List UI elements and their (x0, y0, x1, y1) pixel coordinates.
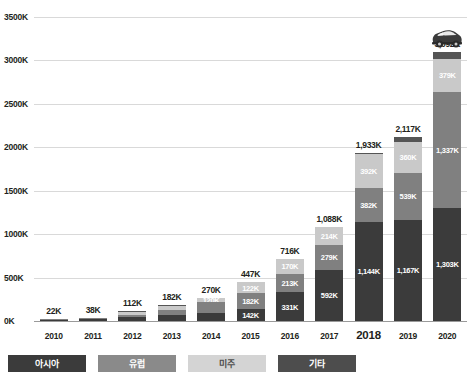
car-icon (430, 28, 464, 50)
bar-total-label: 716K (264, 246, 316, 256)
y-axis-tick-label: 2000K (4, 142, 28, 152)
bar-segment[interactable]: 392K (355, 154, 383, 188)
bar-group[interactable]: 170K213K331K716K (276, 0, 304, 330)
x-axis-tick-label: 2013 (152, 331, 192, 341)
bar-segment-value-label: 182K (237, 296, 265, 305)
bar-segment[interactable]: 182K (237, 293, 265, 309)
bar-segment[interactable]: 360K (394, 142, 422, 173)
bar-total-label: 447K (225, 269, 277, 279)
bar-segment-value-label: 213K (276, 279, 304, 288)
bar-segment-value-label: 379K (433, 71, 461, 80)
bar-stack: 38K (79, 318, 107, 321)
bar-stack: 182K (158, 305, 186, 321)
x-axis-tick-label: 2020 (427, 331, 467, 341)
x-axis-tick-label: 2010 (34, 331, 74, 341)
bar-segment[interactable]: 592K (315, 270, 343, 321)
y-axis-tick-label: 3500K (4, 12, 28, 22)
x-axis-tick-label: 2012 (112, 331, 152, 341)
chart-legend: 아시아유럽미주기타 (8, 355, 356, 373)
x-axis-tick-label: 2017 (309, 331, 349, 341)
bar-stack: 170K213K331K716K (276, 259, 304, 321)
bar-group[interactable]: 120K270K (197, 0, 225, 330)
bar-segment[interactable]: 122K (237, 282, 265, 293)
x-axis-tick-label: 2015 (231, 331, 271, 341)
bar-series-layer: 22K38K112K182K120K270K122K182K142K447K17… (34, 0, 467, 330)
bar-segment[interactable]: 1,144K (355, 222, 383, 321)
bar-group[interactable]: 392K382K1,144K1,933K (355, 0, 383, 330)
bar-stack: 379K1,337K1,303K3,092K (433, 52, 461, 321)
legend-item-2[interactable]: 유럽 (98, 355, 176, 372)
y-axis-tick-label: 0K (4, 316, 14, 326)
bar-segment-value-label: 392K (355, 167, 383, 176)
bar-total-label: 1,088K (303, 214, 355, 224)
x-axis-tick-label: 2011 (73, 331, 113, 341)
bar-stack: 360K539K1,167K2,117K (394, 137, 422, 321)
bar-segment[interactable]: 382K (355, 188, 383, 221)
bar-segment[interactable] (79, 319, 107, 321)
bar-segment[interactable]: 1,337K (433, 92, 461, 208)
bar-segment[interactable] (158, 315, 186, 321)
bar-group[interactable]: 360K539K1,167K2,117K (394, 0, 422, 330)
x-axis-tick-label: 2014 (191, 331, 231, 341)
bar-total-label: 270K (185, 285, 237, 295)
bar-segment-value-label: 279K (315, 253, 343, 262)
bar-segment-value-label: 331K (276, 302, 304, 311)
bar-stack: 120K270K (197, 298, 225, 321)
y-axis-tick-label: 1500K (4, 186, 28, 196)
bar-stack: 122K182K142K447K (237, 282, 265, 321)
bar-stack: 214K279K592K1,088K (315, 227, 343, 321)
bar-stack: 392K382K1,144K1,933K (355, 153, 383, 321)
bar-group[interactable]: 38K (79, 0, 107, 330)
bar-segment[interactable]: 1,303K (433, 208, 461, 321)
legend-item-1[interactable]: 아시아 (8, 355, 86, 372)
bar-segment[interactable]: 279K (315, 245, 343, 269)
bar-segment-value-label: 1,167K (394, 266, 422, 275)
bar-group[interactable]: 112K (118, 0, 146, 330)
bar-segment-value-label: 539K (394, 192, 422, 201)
bar-segment-value-label: 382K (355, 201, 383, 210)
bar-segment[interactable] (118, 317, 146, 321)
bar-segment-value-label: 1,144K (355, 267, 383, 276)
bar-segment[interactable] (197, 313, 225, 321)
bar-group[interactable]: 122K182K142K447K (237, 0, 265, 330)
bar-segment[interactable] (197, 302, 225, 312)
bar-segment-value-label: 1,303K (433, 260, 461, 269)
bar-segment-value-label: 214K (315, 232, 343, 241)
y-axis-tick-label: 500K (4, 273, 24, 283)
bar-group[interactable]: 214K279K592K1,088K (315, 0, 343, 330)
bar-group[interactable]: 22K (40, 0, 68, 330)
bar-segment-value-label: 170K (276, 262, 304, 271)
legend-item-3[interactable]: 미주 (188, 355, 266, 372)
bar-segment[interactable]: 379K (433, 59, 461, 92)
bar-group[interactable]: 182K (158, 0, 186, 330)
bar-segment[interactable]: 213K (276, 274, 304, 293)
x-axis-tick-label: 2016 (270, 331, 310, 341)
x-axis-tick-label: 2019 (388, 331, 428, 341)
bar-segment[interactable]: 142K (237, 309, 265, 321)
bar-segment[interactable]: 331K (276, 292, 304, 321)
bar-stack: 22K (40, 319, 68, 321)
legend-item-4[interactable]: 기타 (278, 355, 356, 372)
x-axis-labels: 2010201120122013201420152016201720182019… (34, 331, 467, 349)
bar-segment[interactable]: 539K (394, 173, 422, 220)
bar-segment[interactable]: 170K (276, 259, 304, 274)
bar-segment-value-label: 142K (237, 310, 265, 319)
bar-segment[interactable]: 214K (315, 227, 343, 246)
bar-segment[interactable] (40, 320, 68, 321)
x-axis-tick-label: 2018 (349, 329, 389, 341)
chart-root: 0K500K1000K1500K2000K2500K3000K3500K 22K… (0, 0, 471, 379)
bar-segment-value-label: 122K (237, 283, 265, 292)
bar-stack: 112K (118, 311, 146, 321)
bar-segment-value-label: 1,337K (433, 145, 461, 154)
y-axis-tick-label: 3000K (4, 55, 28, 65)
y-axis-tick-label: 2500K (4, 99, 28, 109)
bar-segment-value-label: 592K (315, 291, 343, 300)
bar-segment[interactable]: 1,167K (394, 220, 422, 321)
bar-total-label: 2,117K (382, 124, 434, 134)
y-axis-tick-label: 1000K (4, 229, 28, 239)
bar-total-label: 1,933K (343, 140, 395, 150)
bar-group[interactable]: 379K1,337K1,303K3,092K (433, 0, 461, 330)
bar-segment-value-label: 360K (394, 153, 422, 162)
plot-area: 0K500K1000K1500K2000K2500K3000K3500K 22K… (0, 0, 471, 330)
